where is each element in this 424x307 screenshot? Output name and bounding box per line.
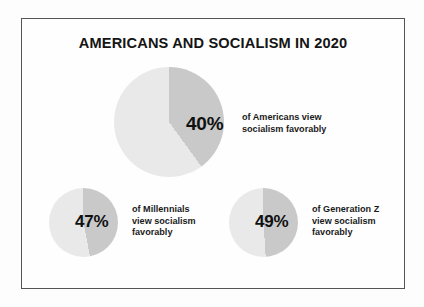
infographic-frame: AMERICANS AND SOCIALISM IN 2020 40% of A… (21, 18, 405, 289)
pie-value-americans: 40% (186, 113, 223, 135)
caption-line: of Americans view (242, 112, 326, 124)
pie-value-millennials: 47% (75, 212, 108, 232)
caption-line: view socialism (312, 216, 379, 228)
caption-line: view socialism (132, 216, 196, 228)
caption-line: socialism favorably (242, 124, 326, 136)
pie-value-genz: 49% (255, 212, 288, 232)
caption-line: of Millennials (132, 204, 196, 216)
pie-caption-millennials: of Millennials view socialism favorably (132, 204, 196, 239)
caption-line: favorably (132, 227, 196, 239)
caption-line: favorably (312, 227, 379, 239)
caption-line: of Generation Z (312, 204, 379, 216)
pie-caption-genz: of Generation Z view socialism favorably (312, 204, 379, 239)
page-title: AMERICANS AND SOCIALISM IN 2020 (22, 35, 404, 51)
pie-caption-americans: of Americans view socialism favorably (242, 112, 326, 135)
scanned-page: AMERICANS AND SOCIALISM IN 2020 40% of A… (0, 0, 424, 307)
